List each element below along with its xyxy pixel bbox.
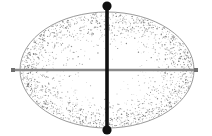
ellipse-diagram: Stippled ellipse with major and minor ax… <box>0 0 212 136</box>
bottom-endpoint-dot <box>102 125 111 134</box>
left-endpoint-square <box>11 68 15 72</box>
top-endpoint-dot <box>102 1 111 10</box>
figure-root: Stippled ellipse with major and minor ax… <box>0 0 212 136</box>
right-endpoint-square <box>194 68 198 72</box>
